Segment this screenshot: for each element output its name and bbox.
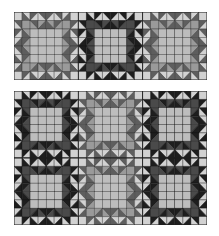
quilt-square-patch: [167, 108, 175, 116]
quilt-square-patch: [54, 133, 62, 141]
quilt-square-patch: [183, 46, 191, 55]
quilt-square-patch: [159, 55, 167, 64]
quilt-square-patch: [46, 183, 54, 191]
quilt-square-patch: [54, 125, 62, 133]
quilt-square-patch: [38, 125, 46, 133]
quilt-square-patch: [135, 91, 143, 99]
quilt-square-patch: [199, 72, 207, 81]
star-block: [78, 158, 142, 225]
quilt-square-patch: [30, 46, 38, 55]
quilt-square-patch: [54, 108, 62, 116]
quilt-square-patch: [30, 29, 38, 38]
quilt-square-patch: [46, 46, 54, 55]
quilt-square-patch: [54, 200, 62, 208]
quilt-square-patch: [46, 192, 54, 200]
quilt-square-patch: [183, 55, 191, 64]
quilt-square-patch: [46, 29, 54, 38]
quilt-square-patch: [46, 200, 54, 208]
quilt-square-patch: [191, 141, 199, 149]
quilt-square-patch: [14, 217, 22, 225]
quilt-square-patch: [86, 208, 94, 216]
quilt-square-patch: [38, 175, 46, 183]
quilt-square-patch: [175, 38, 183, 47]
quilt-square-patch: [94, 46, 102, 55]
quilt-square-patch: [159, 200, 167, 208]
quilt-square-patch: [183, 200, 191, 208]
quilt-square-patch: [199, 217, 207, 225]
quilt-square-patch: [111, 38, 119, 47]
quilt-square-patch: [94, 183, 102, 191]
quilt-square-patch: [127, 208, 135, 216]
quilt-square-patch: [22, 208, 30, 216]
quilt-square-patch: [175, 200, 183, 208]
quilt-square-patch: [102, 108, 110, 116]
quilt-square-patch: [151, 166, 159, 174]
quilt-square-patch: [78, 12, 86, 21]
quilt-square-patch: [94, 108, 102, 116]
quilt-square-patch: [151, 208, 159, 216]
quilt-square-patch: [167, 46, 175, 55]
quilt-panel-top: Single row of star blocks: [14, 12, 207, 80]
quilt-square-patch: [46, 175, 54, 183]
quilt-square-patch: [183, 175, 191, 183]
quilt-square-patch: [167, 133, 175, 141]
quilt-square-patch: [199, 150, 207, 158]
quilt-square-patch: [111, 192, 119, 200]
star-block: [143, 158, 207, 225]
quilt-square-patch: [159, 125, 167, 133]
quilt-square-patch: [119, 175, 127, 183]
quilt-square-patch: [167, 38, 175, 47]
quilt-square-patch: [175, 133, 183, 141]
quilt-square-patch: [143, 158, 151, 166]
quilt-square-patch: [151, 21, 159, 30]
quilt-square-patch: [159, 46, 167, 55]
quilt-square-patch: [111, 55, 119, 64]
quilt-square-patch: [102, 116, 110, 124]
quilt-square-patch: [38, 38, 46, 47]
quilt-square-patch: [127, 99, 135, 107]
quilt-square-patch: [183, 38, 191, 47]
star-block: [143, 91, 207, 158]
quilt-square-patch: [94, 175, 102, 183]
quilt-square-patch: [102, 192, 110, 200]
quilt-square-patch: [151, 141, 159, 149]
quilt-square-patch: [102, 175, 110, 183]
quilt-square-patch: [191, 208, 199, 216]
quilt-square-patch: [38, 116, 46, 124]
quilt-square-patch: [111, 125, 119, 133]
quilt-square-patch: [151, 99, 159, 107]
quilt-square-patch: [86, 141, 94, 149]
quilt-square-patch: [183, 29, 191, 38]
quilt-square-patch: [46, 38, 54, 47]
quilt-square-patch: [38, 46, 46, 55]
quilt-square-patch: [54, 116, 62, 124]
quilt-square-patch: [62, 141, 70, 149]
quilt-square-patch: [143, 217, 151, 225]
quilt-square-patch: [167, 29, 175, 38]
quilt-square-patch: [102, 29, 110, 38]
quilt-square-patch: [78, 150, 86, 158]
quilt-square-patch: [38, 55, 46, 64]
quilt-square-patch: [167, 125, 175, 133]
quilt-square-patch: [14, 150, 22, 158]
quilt-square-patch: [119, 125, 127, 133]
quilt-square-patch: [127, 63, 135, 72]
quilt-square-patch: [175, 192, 183, 200]
quilt-square-patch: [159, 183, 167, 191]
quilt-square-patch: [30, 200, 38, 208]
quilt-square-patch: [119, 133, 127, 141]
quilt-square-patch: [159, 38, 167, 47]
quilt-square-patch: [143, 91, 151, 99]
quilt-square-patch: [102, 38, 110, 47]
quilt-square-patch: [94, 116, 102, 124]
quilt-square-patch: [22, 166, 30, 174]
quilt-square-patch: [175, 183, 183, 191]
quilt-square-patch: [14, 91, 22, 99]
quilt-square-patch: [102, 46, 110, 55]
quilt-square-patch: [14, 12, 22, 21]
quilt-square-patch: [159, 133, 167, 141]
quilt-square-patch: [94, 200, 102, 208]
quilt-square-patch: [111, 108, 119, 116]
quilt-square-patch: [102, 200, 110, 208]
quilt-square-patch: [167, 175, 175, 183]
